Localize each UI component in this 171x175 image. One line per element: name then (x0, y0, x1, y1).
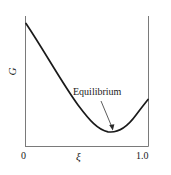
gibbs-energy-curve (26, 24, 148, 132)
x-axis-tick-label-min: 0 (21, 151, 26, 161)
x-axis-label-xi: ξ (76, 151, 81, 162)
x-axis-tick-label-max: 1.0 (136, 151, 149, 161)
annotation-arrowhead (109, 124, 114, 130)
gibbs-energy-figure: G 0 ξ 1.0 Equilibrium (0, 0, 171, 175)
y-axis-label: G (7, 63, 18, 81)
equilibrium-annotation-label: Equilibrium (73, 86, 121, 97)
annotation-leader-line (101, 101, 113, 129)
